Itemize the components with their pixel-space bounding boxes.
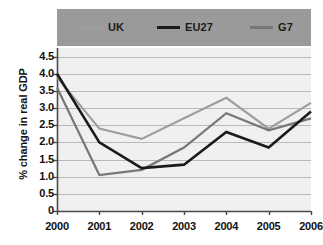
y-tick-label: 2.5 [20,119,54,130]
x-tick-label: 2004 [214,221,238,232]
legend-swatch-g7 [250,26,273,29]
y-tick-label: 0 [20,205,54,216]
legend-item-g7[interactable]: G7 [250,22,293,33]
y-tick-label: 1.5 [20,154,54,165]
y-axis-tick-labels: 4.54.03.53.02.52.01.51.00.50 [18,0,54,245]
y-tick-label: 4.0 [20,68,54,79]
chart-legend: UK EU27 G7 [57,9,311,46]
legend-item-uk[interactable]: UK [80,22,124,33]
x-tick-label: 2000 [45,221,69,232]
y-tick-label: 2.0 [20,136,54,147]
x-tick-label: 2006 [299,221,323,232]
legend-swatch-eu27 [157,26,180,30]
y-tick-label: 1.0 [20,171,54,182]
y-tick-label: 0.5 [20,188,54,199]
y-tick-label: 3.5 [20,85,54,96]
legend-label-uk: UK [108,22,124,33]
y-tick-label: 4.5 [20,51,54,62]
legend-label-eu27: EU27 [185,22,213,33]
legend-item-eu27[interactable]: EU27 [157,22,213,33]
legend-label-g7: G7 [278,22,293,33]
x-tick-label: 2003 [172,221,196,232]
legend-swatch-uk [80,26,103,29]
y-tick-label: 3.0 [20,102,54,113]
x-tick-label: 2005 [257,221,281,232]
x-tick-label: 2001 [87,221,111,232]
x-axis-tick-labels: 2000200120022003200420052006 [0,216,321,236]
x-tick-label: 2002 [130,221,154,232]
